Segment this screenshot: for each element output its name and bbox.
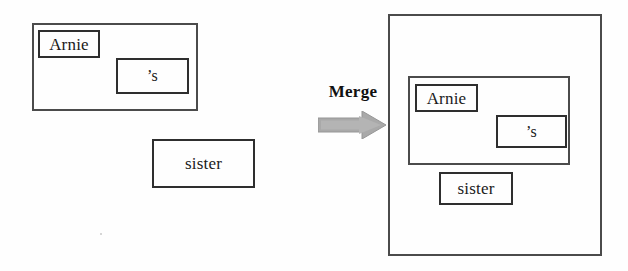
before-arnie-label: Arnie [49, 36, 89, 53]
merge-label: Merge [318, 82, 388, 102]
after-possessive-s-box: ’s [496, 115, 567, 148]
scan-speck [100, 233, 102, 235]
before-arnie-box: Arnie [38, 30, 100, 58]
after-possessive-s-label: ’s [526, 124, 537, 140]
before-possessive-s-box: ’s [116, 58, 189, 94]
after-sister-label: sister [457, 180, 494, 197]
after-arnie-box: Arnie [415, 84, 478, 112]
merge-diagram: Arnie ’s sister Merge Arnie ’s sister [0, 0, 628, 271]
before-possessive-s-label: ’s [147, 68, 158, 84]
before-sister-label: sister [185, 155, 222, 172]
after-sister-box: sister [439, 172, 513, 205]
after-arnie-label: Arnie [427, 90, 467, 107]
before-sister-box: sister [152, 139, 255, 188]
merge-operator: Merge [318, 82, 388, 144]
right-block-arrow-icon [318, 111, 386, 139]
